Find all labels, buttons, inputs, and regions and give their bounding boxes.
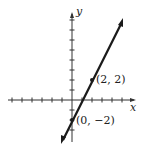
point-label-0-neg2: (0, −2) <box>76 114 115 127</box>
point-label-2-2: (2, 2) <box>96 73 126 86</box>
y-axis-label: y <box>76 5 82 18</box>
point-0-neg2 <box>70 118 74 122</box>
x-axis-label: x <box>130 101 136 114</box>
y-axis-arrow-icon <box>70 12 74 18</box>
coordinate-plane <box>0 0 155 160</box>
point-2-2 <box>90 78 94 82</box>
line-arrow-top-icon <box>118 18 123 27</box>
